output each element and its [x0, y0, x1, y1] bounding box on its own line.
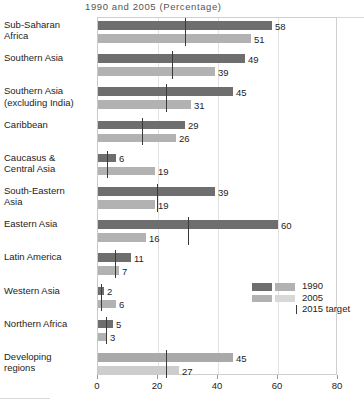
- bar-value-label: 7: [122, 267, 127, 276]
- bar-value-label: 45: [236, 354, 247, 363]
- bar-value-label: 6: [119, 154, 124, 163]
- category-label: Developingregions: [4, 351, 96, 374]
- category-label: Southern Asia(excluding India): [4, 85, 96, 108]
- legend-item: 2015 target: [252, 304, 360, 316]
- category-label: Sub-SaharanAfrica: [4, 19, 96, 42]
- chart-row: 4531: [98, 87, 336, 120]
- x-tick-label: 80: [332, 380, 343, 391]
- category-label: South-EasternAsia: [4, 185, 96, 208]
- chart-title: 1990 and 2005 (Percentage): [85, 1, 222, 12]
- target-tick-2015: [142, 118, 143, 146]
- category-label: Caucasus &Central Asia: [4, 152, 96, 175]
- bar-value-label: 16: [149, 234, 160, 243]
- category-label-line: Caucasus &: [4, 152, 96, 163]
- category-label-line: Africa: [4, 30, 96, 41]
- bar-value-label: 51: [254, 35, 265, 44]
- x-tick-mark: [217, 375, 218, 379]
- target-tick-2015: [172, 51, 173, 79]
- category-label: Eastern Asia: [4, 218, 96, 229]
- target-tick-2015: [166, 350, 167, 378]
- category-label-line: Asia: [4, 196, 96, 207]
- bar-value-label: 19: [158, 167, 169, 176]
- plot-area: 58514939453129266193919601611726534527: [97, 17, 337, 375]
- bar-value-label: 58: [275, 22, 286, 31]
- bar-value-label: 49: [248, 55, 259, 64]
- legend-label: 2015 target: [302, 303, 350, 314]
- category-label-line: Northern Africa: [4, 318, 96, 329]
- category-label-line: (excluding India): [4, 97, 96, 108]
- chart-row: 5851: [98, 21, 336, 54]
- legend-label: 2005: [302, 292, 323, 303]
- category-label: Western Asia: [4, 285, 96, 296]
- x-tick-mark: [97, 375, 98, 379]
- category-label-line: Western Asia: [4, 285, 96, 296]
- x-tick-mark: [277, 375, 278, 379]
- category-label: Southern Asia: [4, 52, 96, 63]
- top-divider: [337, 17, 364, 18]
- bar-chart: 1990 and 2005 (Percentage) 5851493945312…: [0, 0, 364, 403]
- bar-value-label: 6: [119, 300, 124, 309]
- target-tick-2015: [106, 317, 107, 345]
- legend-swatch: [275, 283, 295, 291]
- bar-value-label: 39: [218, 68, 229, 77]
- bar-value-label: 19: [158, 201, 169, 210]
- category-label-line: Latin America: [4, 251, 96, 262]
- category-label: Latin America: [4, 251, 96, 262]
- chart-row: 619: [98, 154, 336, 187]
- category-label-line: Southern Asia: [4, 85, 96, 96]
- target-tick-2015: [157, 184, 158, 212]
- x-tick-label: 20: [152, 380, 163, 391]
- x-tick-label: 60: [272, 380, 283, 391]
- legend-label: 1990: [302, 280, 323, 291]
- target-tick-2015: [166, 84, 167, 112]
- bar-value-label: 29: [188, 121, 199, 130]
- chart-row: 2926: [98, 121, 336, 154]
- bar-2005: [98, 366, 179, 375]
- bar-value-label: 45: [236, 88, 247, 97]
- bar-2005: [98, 266, 119, 275]
- bar-value-label: 60: [281, 221, 292, 230]
- target-tick-2015: [185, 18, 186, 46]
- category-label: Northern Africa: [4, 318, 96, 329]
- x-axis: 020406080: [97, 375, 337, 397]
- category-label-line: Central Asia: [4, 163, 96, 174]
- bar-2005: [98, 100, 191, 109]
- bar-value-label: 3: [110, 333, 115, 342]
- category-label-line: Sub-Saharan: [4, 19, 96, 30]
- bar-2005: [98, 134, 176, 143]
- chart-legend: 199020052015 target: [252, 281, 360, 316]
- category-label-line: Eastern Asia: [4, 218, 96, 229]
- bar-2005: [98, 200, 155, 209]
- chart-row: 4939: [98, 54, 336, 87]
- chart-row: 6016: [98, 220, 336, 253]
- chart-row: 3919: [98, 187, 336, 220]
- legend-swatch: [275, 295, 295, 303]
- bar-value-label: 39: [218, 188, 229, 197]
- category-label-line: South-Eastern: [4, 185, 96, 196]
- legend-swatch: [252, 295, 272, 303]
- x-tick-mark: [337, 375, 338, 379]
- target-tick-2015: [115, 250, 116, 278]
- bar-value-label: 31: [194, 101, 205, 110]
- category-label-line: Caribbean: [4, 119, 96, 130]
- bar-value-label: 5: [116, 320, 121, 329]
- bar-value-label: 2: [107, 287, 112, 296]
- x-tick-mark: [157, 375, 158, 379]
- x-tick-label: 40: [212, 380, 223, 391]
- bar-value-label: 26: [179, 134, 190, 143]
- x-tick-label: 0: [94, 380, 99, 391]
- target-tick-2015: [188, 217, 189, 245]
- bottom-divider: [0, 398, 50, 399]
- legend-target-tick-icon: [296, 305, 297, 314]
- category-label-line: Southern Asia: [4, 52, 96, 63]
- bar-2005: [98, 34, 251, 43]
- category-label-line: regions: [4, 362, 96, 373]
- target-tick-2015: [101, 284, 102, 312]
- bar-2005: [98, 233, 146, 242]
- category-label: Caribbean: [4, 119, 96, 130]
- target-tick-2015: [107, 151, 108, 179]
- category-label-line: Developing: [4, 351, 96, 362]
- chart-row: 53: [98, 320, 336, 353]
- bar-value-label: 11: [134, 254, 144, 263]
- legend-swatch: [252, 283, 272, 291]
